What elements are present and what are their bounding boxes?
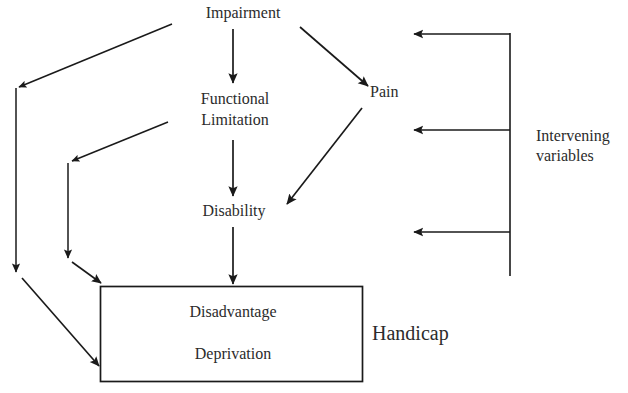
diagram-connectors — [0, 0, 628, 393]
arrow-functional-limitation-to-inner-channel — [72, 122, 168, 161]
node-handicap: Handicap — [372, 321, 449, 345]
node-functional-limitation-line2: Limitation — [201, 110, 269, 129]
node-pain: Pain — [370, 82, 398, 101]
diagram-canvas: Impairment Functional Limitation Disabil… — [0, 0, 628, 393]
node-disability: Disability — [202, 201, 265, 220]
node-intervening-variables-line2: variables — [536, 146, 594, 165]
arrow-impairment-to-pain — [300, 27, 368, 86]
node-functional-limitation-line1: Functional — [201, 89, 269, 108]
arrow-inner-left-to-handicap-box — [72, 262, 101, 283]
node-intervening-variables-line1: Intervening — [536, 126, 610, 145]
arrow-pain-to-disability — [287, 108, 362, 204]
handicap-box — [101, 287, 363, 382]
arrow-impairment-to-left-channel — [19, 24, 172, 87]
box-line-disadvantage: Disadvantage — [189, 302, 276, 321]
node-impairment: Impairment — [206, 3, 281, 22]
arrow-left-outer-to-handicap-box — [22, 278, 99, 366]
box-line-deprivation: Deprivation — [195, 344, 271, 363]
